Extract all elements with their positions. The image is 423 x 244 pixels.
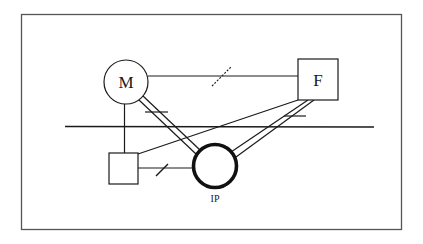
edge-m-ip-b (143, 96, 200, 150)
node-m: M (104, 60, 148, 104)
node-ip-caption: IP (211, 193, 220, 204)
node-ip-circle (194, 145, 237, 188)
diagram-canvas: M F IP (0, 0, 423, 244)
edge-f-ip-b (236, 100, 314, 157)
node-m-label: M (118, 73, 133, 92)
node-s-square (109, 153, 138, 184)
edge-s-ip-mark (156, 164, 168, 176)
edge-f-ip-a (231, 100, 308, 152)
node-ip: IP (194, 145, 237, 205)
node-f: F (298, 59, 338, 100)
node-f-label: F (313, 71, 322, 90)
